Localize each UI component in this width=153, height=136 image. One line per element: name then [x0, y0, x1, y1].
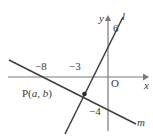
line-m-label: m — [137, 117, 145, 128]
y-tick-label-neg4: −4 — [89, 106, 101, 117]
x-tick-label-neg3: −3 — [69, 61, 81, 72]
origin-label: O — [111, 78, 119, 89]
line-l-label: l — [122, 11, 125, 22]
point-p-label: P(a, b) — [22, 88, 52, 99]
point-p-suffix: ) — [48, 87, 52, 99]
y-axis — [105, 15, 111, 131]
y-axis-label: y — [99, 13, 104, 24]
x-axis-label: x — [144, 80, 149, 91]
point-p-prefix: P( — [22, 87, 32, 99]
coordinate-graph-figure: y x l m 6 −4 −8 −3 O P(a, b) — [0, 0, 153, 136]
y-tick-label-6: 6 — [113, 23, 119, 34]
x-tick-label-neg8: −8 — [35, 61, 47, 72]
x-axis — [8, 74, 149, 81]
intersection-point-marker — [82, 92, 87, 97]
